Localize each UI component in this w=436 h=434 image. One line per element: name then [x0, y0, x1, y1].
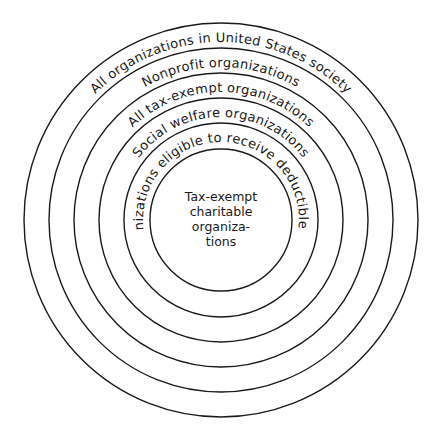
center-label-line-4: tions	[206, 234, 236, 249]
center-label-line-3: organiza-	[192, 219, 250, 234]
ring-label-3: All tax-exempt organizations	[125, 80, 318, 130]
center-label: Tax-exempt charitable organiza- tions	[184, 189, 257, 249]
nested-organizations-diagram: All organizations in United States socie…	[0, 0, 436, 434]
center-label-line-1: Tax-exempt	[184, 189, 257, 204]
ring-label-text-3: All tax-exempt organizations	[125, 80, 318, 130]
center-label-line-2: charitable	[190, 204, 253, 219]
